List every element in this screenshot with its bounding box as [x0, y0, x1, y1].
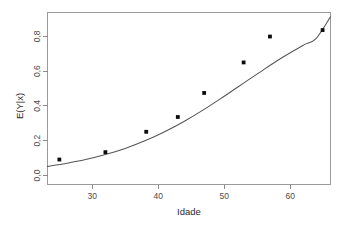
y-tick-label: 0,8	[32, 30, 42, 42]
data-point	[57, 158, 61, 162]
data-point	[202, 91, 206, 95]
y-tick-label: 0,6	[32, 65, 42, 77]
y-tick-label: 0,0	[32, 169, 42, 181]
x-tick-label: 40	[154, 191, 164, 201]
chart-container: 0,0 0,2 0,4 0,6 0,8 E(Y|x) 30 40 50 60 I…	[0, 0, 345, 226]
x-tick-label: 50	[219, 191, 229, 201]
data-point	[144, 130, 148, 134]
y-axis-title: E(Y|x)	[14, 93, 25, 119]
data-point	[104, 150, 108, 154]
y-tick-label: 0,4	[32, 100, 42, 112]
scatter-plot-svg: 0,0 0,2 0,4 0,6 0,8 E(Y|x) 30 40 50 60 I…	[0, 0, 345, 226]
data-point	[321, 28, 325, 32]
x-axis-title: Idade	[177, 206, 201, 217]
data-point	[268, 35, 272, 39]
data-point	[242, 61, 246, 65]
data-point	[176, 115, 180, 119]
y-tick-label: 0,2	[32, 135, 42, 147]
x-tick-label: 60	[285, 191, 295, 201]
x-tick-label: 30	[88, 191, 98, 201]
